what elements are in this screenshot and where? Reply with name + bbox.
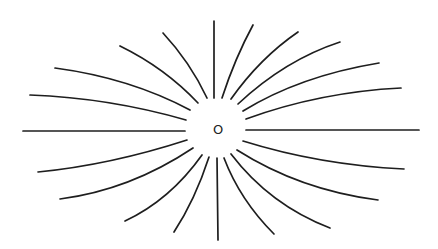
field-line-upper-left-3 [55, 68, 190, 110]
field-line-upper-right-5 [222, 25, 253, 98]
field-line-lower-right-4 [243, 141, 404, 169]
field-line-upper-right-2 [243, 63, 379, 111]
origin-label: O [211, 121, 225, 139]
field-line-bottom-vertical [217, 158, 218, 240]
field-line-lower-left-1 [38, 140, 187, 172]
field-line-upper-left-4 [30, 95, 186, 120]
field-line-lower-left-2 [60, 148, 193, 199]
field-line-upper-left-1 [163, 33, 207, 98]
field-line-upper-right-3 [238, 42, 340, 104]
field-line-lower-right-2 [231, 154, 330, 228]
field-line-lower-right-1 [224, 158, 274, 234]
field-line-upper-right-1 [246, 88, 401, 119]
